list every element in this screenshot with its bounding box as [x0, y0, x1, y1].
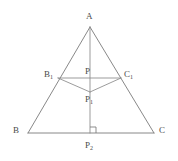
inner-construction [58, 27, 121, 133]
vertex-label-P2: P2 [85, 141, 93, 150]
triangle-outline [28, 27, 154, 133]
right-angle-icon [90, 127, 96, 133]
segment-C1-P1 [90, 78, 121, 92]
segment-B1-P1 [58, 78, 90, 92]
side-AC [90, 27, 154, 133]
vertex-label-P: P [85, 67, 90, 76]
vertex-label-A: A [86, 12, 93, 21]
vertex-label-C: C [159, 126, 165, 135]
vertex-label-P1: P1 [85, 95, 93, 104]
diagram-svg [0, 0, 178, 161]
geometry-diagram-canvas: A B C B1 C1 P P1 P2 [0, 0, 178, 161]
vertex-label-B: B [13, 126, 19, 135]
side-AB [28, 27, 90, 133]
vertex-label-C1: C1 [124, 70, 133, 79]
vertex-label-B1: B1 [44, 70, 53, 79]
